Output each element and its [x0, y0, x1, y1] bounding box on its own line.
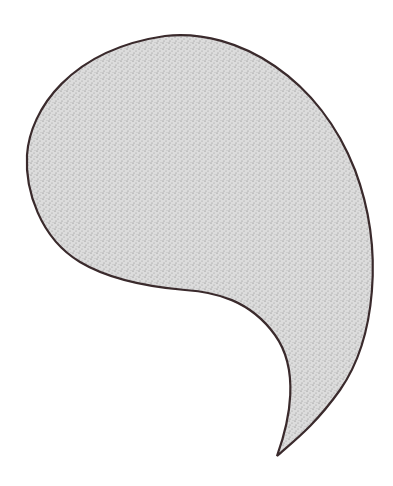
comma-shape-drawing: [0, 0, 393, 486]
comma-shape: [27, 35, 373, 456]
